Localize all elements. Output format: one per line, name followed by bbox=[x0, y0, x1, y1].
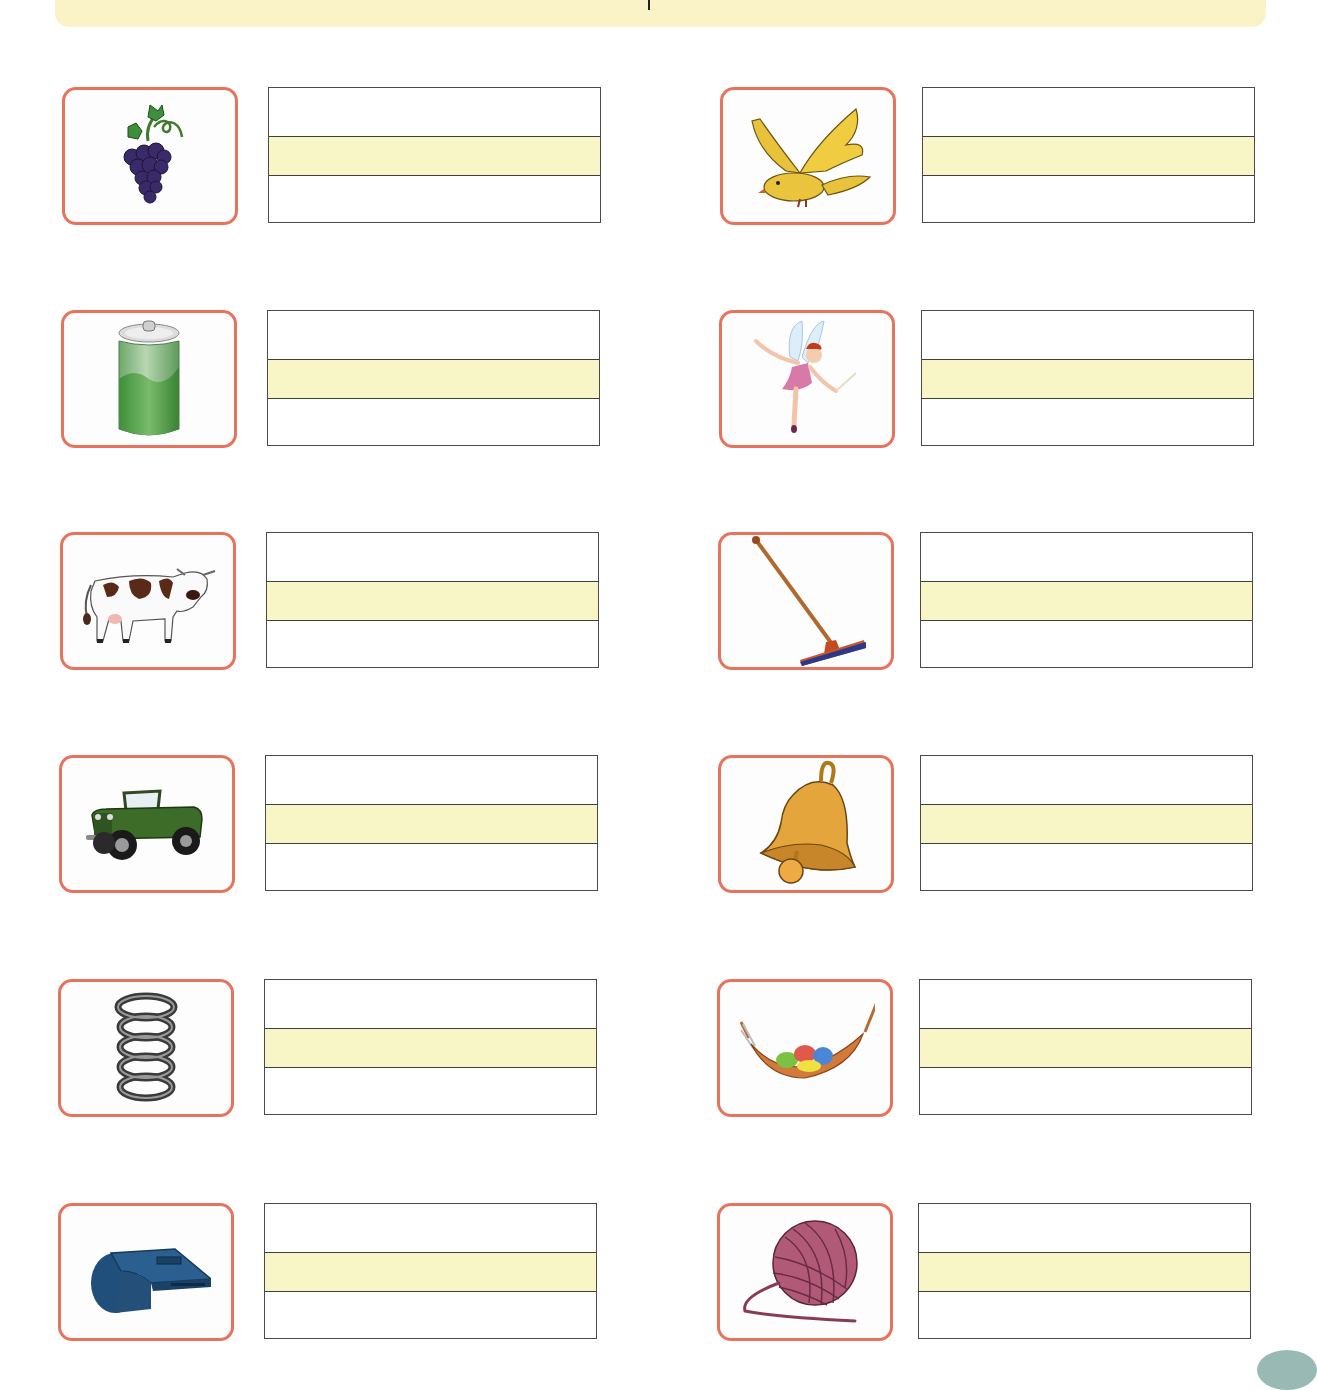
writing-line-top bbox=[921, 756, 1252, 804]
soda-can-icon bbox=[109, 317, 189, 441]
answer-writing-box[interactable] bbox=[264, 1203, 597, 1339]
writing-line-top bbox=[919, 1204, 1250, 1252]
writing-guide-band bbox=[921, 581, 1252, 621]
writing-guide-band bbox=[266, 804, 597, 844]
grapes-icon bbox=[100, 101, 200, 211]
answer-writing-box[interactable] bbox=[919, 979, 1252, 1115]
writing-line-bottom bbox=[919, 1292, 1250, 1338]
answer-writing-box[interactable] bbox=[921, 310, 1254, 446]
mop-icon bbox=[736, 536, 876, 666]
writing-guide-band bbox=[919, 1252, 1250, 1292]
writing-line-top bbox=[923, 88, 1254, 136]
cow-icon bbox=[73, 551, 223, 651]
writing-line-bottom bbox=[268, 399, 599, 445]
picture-frame bbox=[58, 1203, 234, 1341]
answer-writing-box[interactable] bbox=[922, 87, 1255, 223]
picture-frame bbox=[60, 532, 236, 670]
banner-cursor-mark bbox=[648, 0, 650, 10]
answer-writing-box[interactable] bbox=[918, 1203, 1251, 1339]
writing-guide-band bbox=[267, 581, 598, 621]
writing-line-bottom bbox=[265, 1292, 596, 1338]
title-banner bbox=[55, 0, 1266, 27]
writing-line-top bbox=[265, 980, 596, 1028]
picture-frame bbox=[61, 310, 237, 448]
writing-guide-band bbox=[269, 136, 600, 176]
picture-frame bbox=[717, 1203, 893, 1341]
writing-guide-band bbox=[921, 804, 1252, 844]
whistle-icon bbox=[81, 1227, 211, 1317]
writing-line-bottom bbox=[921, 621, 1252, 667]
writing-line-bottom bbox=[267, 621, 598, 667]
writing-line-top bbox=[266, 756, 597, 804]
bird-icon bbox=[738, 101, 878, 211]
fairy-icon bbox=[752, 317, 862, 441]
writing-line-bottom bbox=[265, 1068, 596, 1114]
writing-guide-band bbox=[920, 1028, 1251, 1068]
answer-writing-box[interactable] bbox=[920, 532, 1253, 668]
writing-guide-band bbox=[265, 1252, 596, 1292]
writing-guide-band bbox=[922, 359, 1253, 399]
picture-frame bbox=[718, 755, 894, 893]
picture-frame bbox=[718, 532, 894, 670]
writing-guide-band bbox=[268, 359, 599, 399]
hammock-icon bbox=[735, 998, 875, 1098]
writing-line-top bbox=[920, 980, 1251, 1028]
writing-line-bottom bbox=[266, 844, 597, 890]
writing-line-bottom bbox=[923, 176, 1254, 222]
answer-writing-box[interactable] bbox=[265, 755, 598, 891]
picture-frame bbox=[720, 87, 896, 225]
writing-line-bottom bbox=[922, 399, 1253, 445]
yarn-ball-icon bbox=[735, 1217, 875, 1327]
answer-writing-box[interactable] bbox=[267, 310, 600, 446]
page-corner-decoration bbox=[1257, 1350, 1317, 1390]
writing-line-top bbox=[921, 533, 1252, 581]
picture-frame bbox=[58, 979, 234, 1117]
writing-guide-band bbox=[923, 136, 1254, 176]
answer-writing-box[interactable] bbox=[266, 532, 599, 668]
writing-line-top bbox=[922, 311, 1253, 359]
bell-icon bbox=[751, 759, 861, 889]
writing-line-top bbox=[265, 1204, 596, 1252]
writing-line-top bbox=[267, 533, 598, 581]
writing-line-bottom bbox=[920, 1068, 1251, 1114]
jeep-icon bbox=[82, 779, 212, 869]
picture-frame bbox=[717, 979, 893, 1117]
answer-writing-box[interactable] bbox=[264, 979, 597, 1115]
spring-coil-icon bbox=[106, 989, 186, 1107]
picture-frame bbox=[59, 755, 235, 893]
writing-guide-band bbox=[265, 1028, 596, 1068]
writing-line-top bbox=[268, 311, 599, 359]
picture-frame bbox=[719, 310, 895, 448]
writing-line-top bbox=[269, 88, 600, 136]
answer-writing-box[interactable] bbox=[268, 87, 601, 223]
writing-line-bottom bbox=[269, 176, 600, 222]
writing-line-bottom bbox=[921, 844, 1252, 890]
picture-frame bbox=[62, 87, 238, 225]
answer-writing-box[interactable] bbox=[920, 755, 1253, 891]
